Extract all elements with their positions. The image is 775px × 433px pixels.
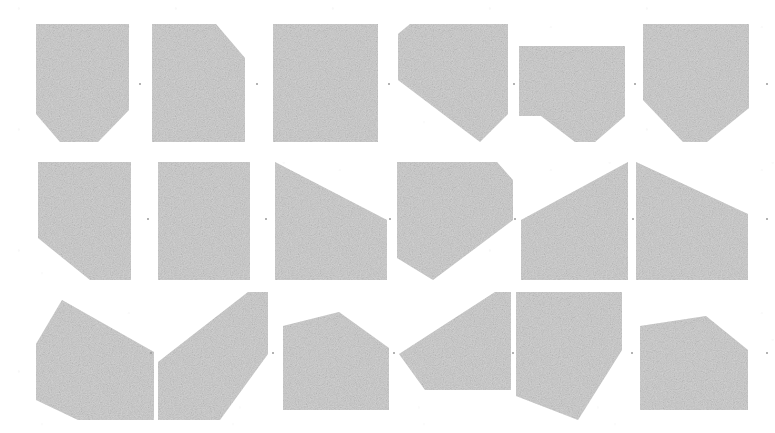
tile-polygon-grain <box>521 162 628 280</box>
tile-polygon-grain <box>640 316 748 410</box>
tile-shape-triangle-rising-right <box>521 162 628 280</box>
tile-polygon-grain <box>275 162 387 280</box>
page-canvas: Grid of grey polygonal tiles <box>0 0 775 433</box>
tile-quadrilateral-slanted-right-edge[interactable] <box>36 300 154 420</box>
tile-quadrilateral-rising-right[interactable] <box>399 292 511 420</box>
tile-polygon-grain <box>398 24 508 142</box>
tile-polygon-grain <box>516 292 622 420</box>
tile-polygon-grain <box>158 292 268 420</box>
separator-dot <box>631 352 633 354</box>
tile-polygon-grain <box>36 300 154 420</box>
separator-dot <box>272 352 274 354</box>
tile-shape-parallelogram-descending <box>397 162 513 280</box>
separator-dot <box>512 352 514 354</box>
tile-polygon-grain <box>636 162 748 280</box>
tile-pentagon-clipped-bottom-left[interactable] <box>38 162 131 280</box>
tile-shape-rectangle-full <box>273 24 378 142</box>
tile-shape-trapezoid-peak-left <box>636 162 748 280</box>
separator-dot <box>139 83 141 85</box>
separator-dot <box>150 352 152 354</box>
separator-dot <box>634 83 636 85</box>
separator-dot <box>514 218 516 220</box>
tile-trapezoid-descending-right[interactable] <box>275 162 387 280</box>
tile-polygon-grain <box>273 24 378 142</box>
tile-rectangle-full[interactable] <box>273 24 378 142</box>
separator-dot <box>766 352 768 354</box>
tile-polygon-grain <box>36 24 129 142</box>
tile-shape-quadrilateral-rising-right <box>399 292 511 420</box>
tile-trapezoid-peak-left[interactable] <box>636 162 748 280</box>
tile-shape-trapezoid-descending-right <box>275 162 387 280</box>
separator-dot <box>393 352 395 354</box>
tile-shape-pentagon-clipped-bottom-left <box>38 162 131 280</box>
tile-pentagon-point-down-center[interactable] <box>643 24 749 142</box>
separator-dot <box>766 83 768 85</box>
tile-shape-pentagon-point-down-left <box>36 24 129 142</box>
separator-dot <box>389 218 391 220</box>
separator-dot <box>513 83 515 85</box>
tile-polygon-grain <box>38 162 131 280</box>
separator-dot <box>147 218 149 220</box>
tile-polygon-grain <box>152 24 245 142</box>
tile-shape-quadrilateral-tapered-down-right <box>516 292 622 420</box>
tile-quadrilateral-tapered-down-right[interactable] <box>516 292 622 420</box>
tile-shape-pentagon-point-down-right <box>398 24 508 142</box>
tile-polygon-grain <box>397 162 513 280</box>
tile-quadrilateral-curved-top-right[interactable] <box>152 24 245 142</box>
tile-parallelogram-descending[interactable] <box>397 162 513 280</box>
tile-quadrilateral-angled-top[interactable] <box>640 316 748 410</box>
separator-dot <box>388 83 390 85</box>
tile-rectangle-split-vertical[interactable] <box>158 162 250 280</box>
separator-dot <box>632 218 634 220</box>
separator-dot <box>256 83 258 85</box>
tile-shape-rectangle-split-vertical <box>158 162 250 280</box>
separator-dot <box>766 218 768 220</box>
separator-dot <box>265 218 267 220</box>
tile-shape-quadrilateral-slanted-right-edge <box>36 300 154 420</box>
tile-pentagon-notch-bottom-center[interactable] <box>519 46 625 142</box>
tile-polygon-grain <box>519 46 625 142</box>
tile-polygon-grain <box>283 312 389 410</box>
tile-pentagon-point-down-left[interactable] <box>36 24 129 142</box>
tile-shape-pentagon-point-down-center <box>643 24 749 142</box>
tile-shape-quadrilateral-angled-top <box>640 316 748 410</box>
tile-shape-pentagon-peaked-top <box>283 312 389 410</box>
tile-parallelogram-steep-rising[interactable] <box>158 292 268 420</box>
tile-polygon-grain <box>643 24 749 142</box>
tile-shape-quadrilateral-curved-top-right <box>152 24 245 142</box>
tile-triangle-rising-right[interactable] <box>521 162 628 280</box>
tile-pentagon-peaked-top[interactable] <box>283 312 389 410</box>
tile-pentagon-point-down-right[interactable] <box>398 24 508 142</box>
tile-shape-pentagon-notch-bottom-center <box>519 46 625 142</box>
tile-shape-parallelogram-steep-rising <box>158 292 268 420</box>
tile-polygon-grain <box>399 292 511 390</box>
tile-grid <box>0 0 775 433</box>
tile-polygon-grain <box>158 162 250 280</box>
